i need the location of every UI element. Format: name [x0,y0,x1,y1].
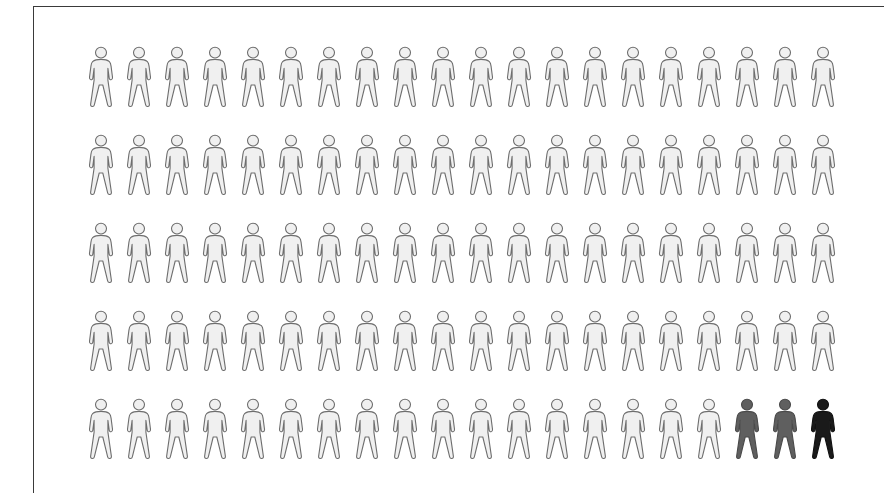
person-icon [240,220,266,284]
person-icon [696,220,722,284]
person-icon [88,396,114,460]
person-icon [164,396,190,460]
person-icon [582,308,608,372]
person-icon [734,396,760,460]
person-icon [810,220,836,284]
person-icon [88,308,114,372]
person-icon [354,132,380,196]
pictogram-row [88,44,836,108]
person-icon [240,132,266,196]
person-icon [696,132,722,196]
person-icon [468,44,494,108]
person-icon [506,308,532,372]
person-icon [810,308,836,372]
person-icon [316,220,342,284]
person-icon [164,220,190,284]
person-icon [506,132,532,196]
person-icon [468,308,494,372]
pictogram-row [88,220,836,284]
person-icon [810,44,836,108]
person-icon [734,132,760,196]
person-icon [582,220,608,284]
person-icon [240,308,266,372]
person-icon [620,132,646,196]
person-icon [544,132,570,196]
person-icon [658,396,684,460]
person-icon [354,308,380,372]
person-icon [772,220,798,284]
person-icon [544,220,570,284]
person-icon [316,396,342,460]
person-icon [430,220,456,284]
person-icon [88,132,114,196]
person-icon [278,308,304,372]
person-icon [544,396,570,460]
person-icon [734,44,760,108]
person-icon [430,44,456,108]
person-icon [620,44,646,108]
person-icon [658,220,684,284]
person-icon [202,44,228,108]
person-icon [696,308,722,372]
person-icon [734,308,760,372]
person-icon [278,220,304,284]
person-icon [734,220,760,284]
person-icon [430,396,456,460]
person-icon [658,44,684,108]
person-icon [810,132,836,196]
person-icon [392,132,418,196]
person-icon [354,44,380,108]
person-icon [126,44,152,108]
person-icon [316,308,342,372]
person-icon [88,44,114,108]
person-icon [278,44,304,108]
person-icon [468,220,494,284]
pictogram-row [88,132,836,196]
person-icon [202,132,228,196]
person-icon [126,132,152,196]
person-icon [810,396,836,460]
person-icon [392,308,418,372]
person-icon [392,44,418,108]
person-icon [544,308,570,372]
person-icon [468,396,494,460]
person-icon [430,308,456,372]
person-icon [620,396,646,460]
person-icon [316,44,342,108]
person-icon [506,396,532,460]
person-icon [468,132,494,196]
person-icon [392,220,418,284]
person-icon [164,132,190,196]
person-icon [392,396,418,460]
person-icon [126,220,152,284]
person-icon [696,396,722,460]
person-icon [278,132,304,196]
pictogram-row [88,308,836,372]
person-icon [354,220,380,284]
person-icon [126,396,152,460]
person-icon [582,396,608,460]
person-icon [506,220,532,284]
person-icon [620,220,646,284]
person-icon [506,44,532,108]
person-icon [240,44,266,108]
person-icon [658,132,684,196]
person-icon [582,44,608,108]
person-icon [240,396,266,460]
person-icon [772,396,798,460]
person-icon [658,308,684,372]
pictogram-row [88,396,836,460]
pictogram-grid [0,0,884,493]
person-icon [126,308,152,372]
person-icon [278,396,304,460]
person-icon [88,220,114,284]
person-icon [164,44,190,108]
person-icon [772,132,798,196]
person-icon [430,132,456,196]
person-icon [772,44,798,108]
person-icon [164,308,190,372]
person-icon [544,44,570,108]
person-icon [202,220,228,284]
person-icon [202,308,228,372]
person-icon [582,132,608,196]
